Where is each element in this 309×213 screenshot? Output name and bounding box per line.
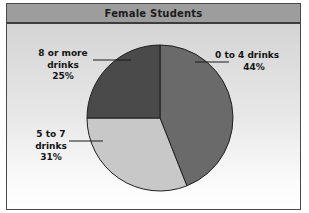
pie-label-8-or-more-drinks-line2: drinks [21, 60, 105, 72]
pie-label-5-to-7-drinks: 5 to 7 drinks 31% [19, 129, 83, 164]
chart-title-band: Female Students [7, 4, 300, 24]
pie-plot-area: 8 or more drinks 25% 5 to 7 drinks 31% 0… [7, 24, 300, 210]
pie-label-5-to-7-drinks-line2: drinks [19, 141, 83, 153]
pie-value-8-or-more-drinks: 25% [21, 71, 105, 83]
pie-label-5-to-7-drinks-line1: 5 to 7 [19, 129, 83, 141]
chart-frame: Female Students 8 or more drinks 25% 5 t… [6, 3, 301, 210]
chart-title: Female Students [105, 8, 203, 19]
pie-label-8-or-more-drinks-line1: 8 or more [21, 48, 105, 60]
pie-value-5-to-7-drinks: 31% [19, 152, 83, 164]
pie-label-0-to-4-drinks-line1: 0 to 4 drinks [215, 50, 301, 62]
pie-value-0-to-4-drinks: 44% [215, 62, 293, 74]
pie-label-0-to-4-drinks: 0 to 4 drinks 44% [215, 50, 301, 73]
pie-label-8-or-more-drinks: 8 or more drinks 25% [21, 48, 105, 83]
